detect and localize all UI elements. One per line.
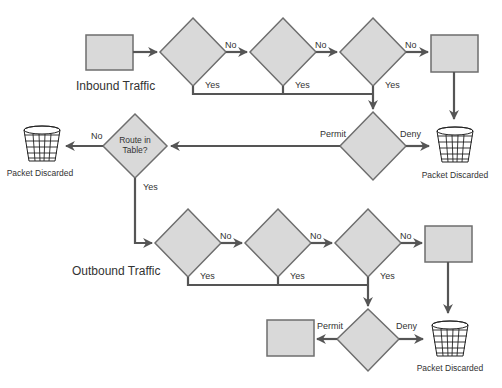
trash-can-icon xyxy=(432,321,468,356)
inbound-discard-label: Packet Discarded xyxy=(422,170,489,180)
route-decision-line2: Table? xyxy=(122,145,147,155)
outbound-end-box xyxy=(425,226,472,262)
outbound-decision-3 xyxy=(335,209,401,277)
inbound-deny-label: Deny xyxy=(400,129,422,139)
outbound-deny-label: Deny xyxy=(396,321,418,331)
inbound-yes-label-1: Yes xyxy=(205,80,220,90)
inbound-no-label-3: No xyxy=(405,40,417,50)
route-decision-line1: Route in xyxy=(119,135,151,145)
inbound-decision-3 xyxy=(340,18,406,86)
inbound-traffic-title: Inbound Traffic xyxy=(76,79,155,93)
outbound-permit-label: Permit xyxy=(317,321,344,331)
inbound-end-box xyxy=(431,35,478,72)
outbound-yes-label-3: Yes xyxy=(380,271,395,281)
inbound-decision-2 xyxy=(250,18,316,86)
outbound-yes-label-2: Yes xyxy=(290,271,305,281)
inbound-no-label-2: No xyxy=(315,40,327,50)
inbound-yes-label-3: Yes xyxy=(385,80,400,90)
outbound-yes-label-1: Yes xyxy=(200,271,215,281)
outbound-traffic-title: Outbound Traffic xyxy=(72,264,161,278)
inbound-start-box xyxy=(86,35,133,70)
routing-flow: Route in Table? No Packet Discarded Yes xyxy=(7,114,167,243)
outbound-acl-decision xyxy=(337,309,399,371)
outbound-no-label-2: No xyxy=(310,231,322,241)
inbound-no-label-1: No xyxy=(225,40,237,50)
route-no-label: No xyxy=(91,131,103,141)
inbound-decision-1 xyxy=(160,18,226,86)
flowchart-canvas: No No No Yes Yes Yes Inbound Traffic Den… xyxy=(0,0,502,388)
inbound-yes-label-2: Yes xyxy=(295,80,310,90)
outbound-discard-label: Packet Discarded xyxy=(417,363,484,373)
inbound-acl-decision xyxy=(340,112,406,180)
outbound-forward-box xyxy=(267,320,314,356)
trash-can-icon xyxy=(24,126,60,161)
outbound-no-label-3: No xyxy=(400,231,412,241)
route-discard-label: Packet Discarded xyxy=(7,168,74,178)
route-yes-label: Yes xyxy=(143,182,158,192)
outbound-decision-2 xyxy=(245,209,311,277)
outbound-decision-1 xyxy=(155,209,221,277)
inbound-permit-label: Permit xyxy=(320,129,347,139)
outbound-flow: No No No Yes Yes Yes Outbound Traffic Pe… xyxy=(72,209,484,373)
trash-can-icon xyxy=(437,127,473,162)
outbound-no-label-1: No xyxy=(220,231,232,241)
